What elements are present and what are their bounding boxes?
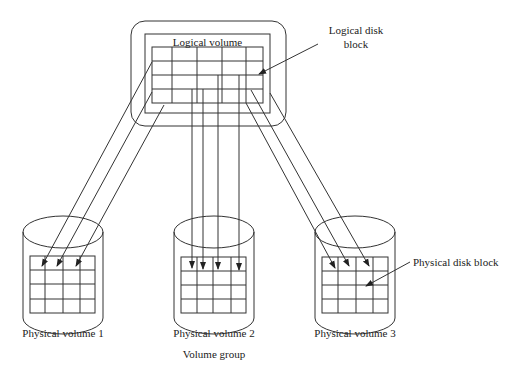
physical-volume-2-label: Physical volume 2 [164,327,264,340]
logical-volume-label: Logical volume [165,36,250,49]
mapping-arrows-pv2 [192,75,239,270]
physical-disk-block-label: Physical disk block [413,256,499,269]
physical-volume-3-label: Physical volume 3 [305,327,405,340]
physical-volume-3-cylinder [315,216,395,334]
logical-disk-block-label-line2: block [320,38,392,51]
physical-volume-1-label: Physical volume 1 [13,327,113,340]
mapping-arrows-pv3 [246,90,369,268]
logical-volume-grid [152,47,263,103]
physical-volume-2-cylinder [174,216,254,334]
logical-disk-block-label-line1: Logical disk [320,24,392,37]
logical-disk-block-pointer [259,44,318,74]
volume-group-label: Volume group [164,348,264,361]
physical-volume-1-cylinder [23,216,103,334]
lvm-diagram [0,0,509,375]
